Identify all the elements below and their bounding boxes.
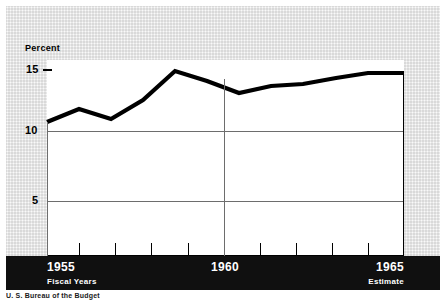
plot-right-border (403, 73, 404, 256)
y-tick-dash-15 (43, 69, 52, 71)
y-tick-label-5: 5 (32, 195, 38, 206)
x-axis-group-1955: 1955 Fiscal Years (47, 261, 97, 286)
source-caption: U. S. Bureau of the Budget (6, 292, 100, 302)
x-tick-1964 (368, 243, 369, 256)
y-tick-label-10: 10 (25, 125, 38, 136)
x-tick-label-1965: 1965 (318, 261, 404, 275)
estimate-annotation: Estimate (318, 277, 404, 286)
plot-area-background (47, 60, 404, 256)
x-tick-1959 (188, 243, 189, 256)
x-axis-group-1965: 1965 Estimate (318, 261, 404, 286)
x-tick-label-1955: 1955 (47, 261, 97, 275)
x-axis-title-fiscal-years: Fiscal Years (47, 277, 97, 286)
x-tick-1957 (115, 243, 116, 256)
vertical-line-1960 (224, 79, 225, 256)
y-tick-label-15: 15 (26, 64, 39, 75)
gridline-5 (47, 201, 404, 202)
x-tick-1956 (79, 243, 80, 256)
x-tick-1962 (296, 243, 297, 256)
gridline-10 (47, 131, 404, 132)
x-tick-1961 (260, 243, 261, 256)
x-tick-1963 (332, 243, 333, 256)
chart-figure: Percent 15 10 5 1955 Fiscal Years 1960 1… (0, 0, 446, 302)
x-tick-label-1960: 1960 (211, 261, 239, 275)
plot-left-border (47, 122, 48, 256)
y-axis-title: Percent (25, 44, 60, 53)
x-axis-group-1960: 1960 (211, 261, 239, 277)
x-tick-1958 (151, 243, 152, 256)
